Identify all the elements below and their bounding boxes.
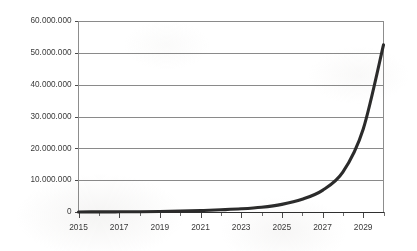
y-axis-tick-label: 60.000.000 [31, 16, 72, 25]
y-axis-tick-label: 30.000.000 [31, 112, 72, 121]
x-axis-tick-label: 2017 [110, 222, 129, 232]
chart-container: 010.000.00020.000.00030.000.00040.000.00… [0, 0, 417, 251]
x-axis-tick-label: 2015 [69, 222, 88, 232]
y-axis-tick-label: 50.000.000 [31, 48, 72, 57]
x-axis-tick-label: 2025 [273, 222, 292, 232]
chart-background [0, 0, 417, 251]
y-axis-tick-label: 0 [67, 207, 72, 216]
y-axis-tick-label: 40.000.000 [31, 80, 72, 89]
y-axis-tick-label: 20.000.000 [31, 144, 72, 153]
exponential-growth-line-chart: 010.000.00020.000.00030.000.00040.000.00… [0, 0, 417, 251]
x-axis-tick-label: 2027 [313, 222, 332, 232]
x-axis-tick-label: 2021 [191, 222, 210, 232]
x-axis-tick-label: 2029 [354, 222, 373, 232]
x-axis-tick-label: 2019 [151, 222, 170, 232]
x-axis-tick-label: 2023 [232, 222, 251, 232]
y-axis-tick-label: 10.000.000 [31, 175, 72, 184]
